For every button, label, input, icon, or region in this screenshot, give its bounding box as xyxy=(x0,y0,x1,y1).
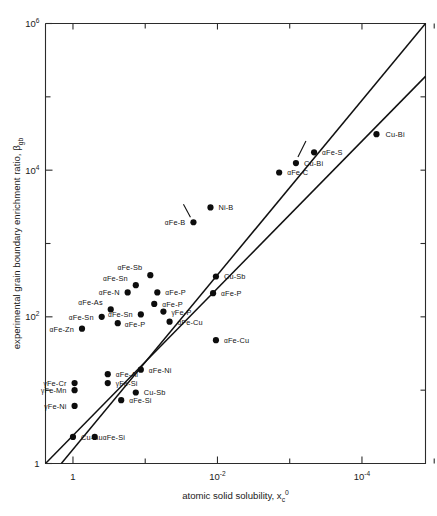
lower-diagonal xyxy=(46,76,426,463)
data-point: Cu-Bi xyxy=(293,141,324,168)
figure-caption-ghost xyxy=(8,506,429,515)
point-marker xyxy=(71,387,77,393)
data-point: γFe-Mn xyxy=(41,386,78,395)
x-tick-label: 1 xyxy=(70,471,75,482)
data-point: αFe-Cu xyxy=(166,318,202,327)
point-marker xyxy=(373,131,379,137)
x-axis-title: atomic solid solubility, xc0 xyxy=(182,489,289,503)
data-point: αFe-Ni xyxy=(138,366,172,375)
data-point: γFe-Ni xyxy=(44,402,77,411)
point-marker xyxy=(151,301,157,307)
point-label: αFe-Ni xyxy=(149,366,172,375)
data-point: αFe-Zn xyxy=(50,325,86,334)
point-marker xyxy=(105,371,111,377)
plot-frame xyxy=(46,24,426,464)
y-tick-label: 106 xyxy=(25,17,40,29)
point-marker xyxy=(71,403,77,409)
y-tick-label: 1 xyxy=(34,458,39,469)
point-label: αFe-Zn xyxy=(50,325,74,334)
data-point: Ni-B xyxy=(207,203,233,212)
point-label: αFe-Al xyxy=(116,370,139,379)
point-marker xyxy=(133,389,139,395)
axis-titles-group: atomic solid solubility, xc0experimental… xyxy=(11,138,289,503)
point-label: αFe-Sn xyxy=(69,313,94,322)
point-marker xyxy=(71,380,77,386)
point-label: γFe-Mn xyxy=(41,386,67,395)
point-marker xyxy=(115,320,121,326)
point-label: αFe-Cu xyxy=(224,336,249,345)
point-marker xyxy=(92,434,98,440)
point-label: γFe-P xyxy=(171,308,191,317)
point-label: αFe-As xyxy=(78,298,103,307)
point-label: γFe-Si xyxy=(116,379,138,388)
point-label: αFe-Si xyxy=(103,433,126,442)
point-label: Cu-Bi xyxy=(304,159,323,168)
point-label: αFe-B xyxy=(165,218,186,227)
data-point: αFe-P xyxy=(154,288,186,297)
point-marker xyxy=(133,282,139,288)
point-label: αFe-P xyxy=(125,320,146,329)
point-label: γFe-Ni xyxy=(44,402,66,411)
point-label: αFe-Sn xyxy=(103,274,128,283)
point-marker xyxy=(293,160,299,166)
point-marker xyxy=(276,169,282,175)
data-point: γFe-Si xyxy=(105,379,138,388)
data-point: αFe-Cu xyxy=(213,336,249,345)
point-label: αFe-N xyxy=(99,288,120,297)
point-label: Ni-B xyxy=(218,203,233,212)
point-label: αFe-Cu xyxy=(178,318,203,327)
point-marker xyxy=(125,289,131,295)
tick-labels-group: 1102104106110-210-4 xyxy=(25,17,370,482)
point-marker xyxy=(213,337,219,343)
point-leader-line xyxy=(298,141,306,157)
x-tick-label: 10-4 xyxy=(354,470,371,482)
data-point: Cu-Bi xyxy=(373,130,405,139)
scatter-plot: 1102104106110-210-4 Cu-BiαFe-SCu-BiαFe-C… xyxy=(0,0,437,516)
point-marker xyxy=(210,290,216,296)
point-marker xyxy=(79,326,85,332)
data-point: αFe-Sn xyxy=(103,274,139,288)
y-axis-title: experimental grain boundary enrichment r… xyxy=(11,138,25,350)
y-tick-label: 102 xyxy=(25,310,40,322)
point-marker xyxy=(207,204,213,210)
ticks-group xyxy=(46,24,435,464)
data-point: αFe-C xyxy=(276,168,309,177)
point-marker xyxy=(70,434,76,440)
point-label: Cu-Bi xyxy=(385,130,404,139)
point-marker xyxy=(105,380,111,386)
point-label: αFe-Sn xyxy=(108,310,133,319)
y-tick-label: 104 xyxy=(25,164,40,176)
figure-container: 1102104106110-210-4 Cu-BiαFe-SCu-BiαFe-C… xyxy=(0,0,437,516)
point-marker xyxy=(154,289,160,295)
data-point: αFe-B xyxy=(165,204,197,227)
point-marker xyxy=(166,319,172,325)
point-marker xyxy=(138,367,144,373)
point-marker xyxy=(190,219,196,225)
point-label: αFe-C xyxy=(287,168,309,177)
point-marker xyxy=(213,273,219,279)
data-point: αFe-Sn xyxy=(69,313,105,322)
point-label: Cu-Sb xyxy=(224,272,246,281)
data-point: γFe-P xyxy=(160,308,191,317)
point-marker xyxy=(147,272,153,278)
point-label: αFe-P xyxy=(221,289,242,298)
data-point: αFe-P xyxy=(115,320,146,329)
data-points-group: Cu-BiαFe-SCu-BiαFe-CNi-BαFe-BαFe-SbCu-Sb… xyxy=(41,130,405,442)
data-point: αFe-N xyxy=(99,288,131,297)
point-label: αFe-Si xyxy=(129,396,152,405)
x-tick-label: 10-2 xyxy=(209,470,226,482)
point-leader-line xyxy=(183,204,190,217)
point-marker xyxy=(311,149,317,155)
data-point: αFe-Sn xyxy=(108,310,144,319)
point-marker xyxy=(138,311,144,317)
data-point: αFe-Al xyxy=(105,370,139,379)
point-marker xyxy=(99,314,105,320)
point-marker xyxy=(160,308,166,314)
point-label: αFe-Sb xyxy=(117,263,142,272)
point-label: αFe-P xyxy=(165,288,186,297)
data-point: αFe-Si xyxy=(118,396,152,405)
axes-group xyxy=(46,24,426,464)
point-marker xyxy=(118,397,124,403)
upper-diagonal xyxy=(61,24,425,464)
reference-lines-group xyxy=(46,24,426,464)
